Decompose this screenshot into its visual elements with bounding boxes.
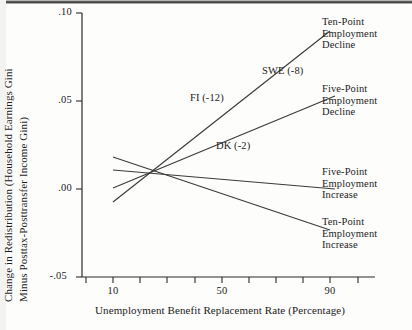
series-label-ten-point-employment-decline: Ten-Point Employment Decline [322,16,377,51]
series-label-five-point-employment-decline: Five-Point Employment Decline [322,83,377,118]
y-tick-label-1: .05 [38,94,72,105]
series-line-five-point-employment-increase [113,170,335,189]
x-tick-label-0: 10 [98,285,128,296]
series-label-five-point-employment-increase: Five-Point Employment Increase [322,166,377,201]
series-label-ten-point-employment-increase: Ten-Point Employment Increase [322,216,377,251]
x-axis-label: Unemployment Benefit Replacement Rate (P… [40,304,400,316]
x-tick-label-2: 90 [315,285,345,296]
y-axis-ticks [76,13,82,277]
series-line-ten-point-employment-increase [113,157,330,230]
annotation-swe: SWE (-8) [262,65,303,77]
annotation-fi: FI (-12) [190,92,224,104]
y-tick-label-3: -.05 [33,270,67,281]
y-axis-label-line-2: Minus Posttax-Posttransfer Income Gini) [17,117,29,302]
y-tick-label-2: .00 [38,182,72,193]
x-axis-ticks [86,277,358,283]
y-tick-label-0: .10 [38,6,72,17]
annotation-dk: DK (-2) [216,140,250,152]
series-line-ten-point-employment-decline [113,31,330,202]
x-tick-label-1: 50 [207,285,237,296]
y-axis-label-line-1: Change in Redistribution (Household Earn… [2,68,14,302]
chart-figure: .10 .05 .00 -.05 10 50 90 Unemployment B… [0,0,412,330]
